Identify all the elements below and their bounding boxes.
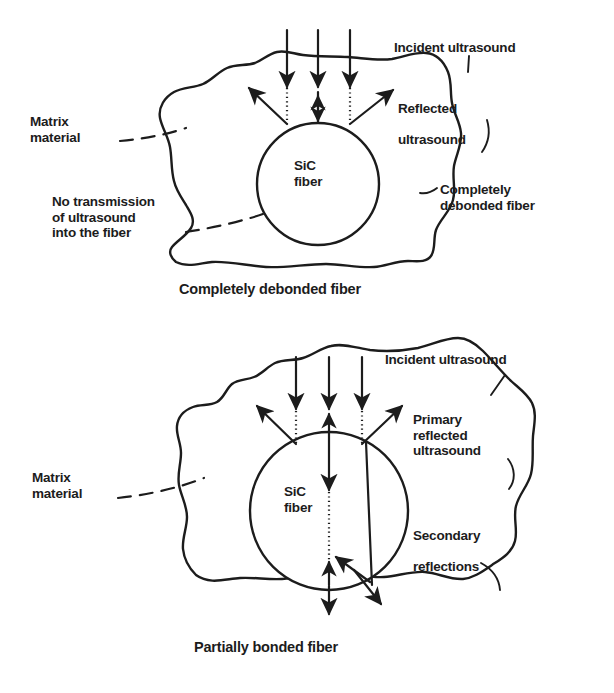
label-reflected-bold-top: Reflected — [398, 101, 466, 117]
label-sic-fiber-top: SiC fiber — [294, 158, 322, 189]
figure-page: Incident ultrasound Reflected ultrasound… — [0, 0, 614, 693]
label-reflected-ultrasound-top: Reflected ultrasound — [398, 85, 466, 163]
diagram-canvas — [0, 0, 614, 693]
label-secondary-bold-bottom: Secondary — [413, 528, 480, 544]
caption-bottom-panel: Partially bonded fiber — [194, 639, 338, 655]
leader-no-transmission-top — [186, 213, 266, 232]
primary-reflected-right-bottom — [362, 406, 402, 444]
leader-reflected-top — [482, 120, 489, 152]
leader-incident-bottom — [491, 375, 505, 395]
label-secondary-rest-bottom: reflections — [413, 559, 480, 575]
leader-incident-top — [468, 56, 469, 72]
label-completely-debonded-fiber-top: Completely debonded fiber — [440, 182, 535, 213]
primary-reflected-left-bottom — [257, 406, 296, 444]
label-primary-reflected-ultrasound-bottom: Primary reflected ultrasound — [413, 412, 481, 459]
label-matrix-material-bottom: Matrix material — [32, 470, 82, 501]
label-no-transmission-top: No transmission of ultrasound into the f… — [52, 194, 155, 241]
leader-primary-bottom — [508, 459, 514, 489]
label-incident-ultrasound-bottom: Incident ultrasound — [385, 352, 506, 368]
leader-matrix-material-top — [120, 128, 186, 141]
label-secondary-reflections-bottom: Secondary reflections — [413, 512, 480, 590]
leader-matrix-material-bottom — [118, 478, 204, 498]
label-incident-ultrasound-top: Incident ultrasound — [394, 40, 515, 56]
label-matrix-material-top: Matrix material — [30, 114, 80, 145]
label-reflected-rest-top: ultrasound — [398, 132, 466, 148]
label-sic-fiber-bottom: SiC fiber — [284, 484, 312, 515]
leader-debonded-top — [420, 188, 437, 193]
reflected-ray-right-top — [350, 90, 393, 124]
caption-top-panel: Completely debonded fiber — [179, 281, 361, 297]
reflected-ray-left-top — [249, 88, 287, 124]
